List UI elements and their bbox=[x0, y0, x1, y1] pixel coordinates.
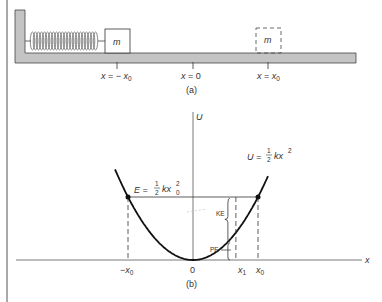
position-label-minus-x0: x = − x0 bbox=[100, 71, 132, 82]
spring-mass-diagram: m m x = − x0 x = 0 x = x0 (a) U x K bbox=[0, 0, 382, 302]
spring-coil bbox=[54, 32, 59, 50]
curve-sup: 2 bbox=[288, 147, 292, 154]
spring-coil bbox=[78, 32, 83, 50]
energy-frac-den: 2 bbox=[155, 189, 159, 196]
spring-coil bbox=[39, 32, 44, 50]
spring-coil bbox=[42, 32, 47, 50]
spring-coil bbox=[93, 32, 98, 50]
ke-guide-mark bbox=[187, 209, 207, 212]
spring-coil bbox=[63, 32, 68, 50]
spring-coil bbox=[66, 32, 71, 50]
spring-coil bbox=[57, 32, 62, 50]
curve-label: U = bbox=[247, 152, 261, 162]
mass-label: m bbox=[113, 37, 121, 47]
spring-coil bbox=[69, 32, 74, 50]
pe-label: PE bbox=[210, 246, 219, 253]
caption-a: (a) bbox=[186, 85, 197, 95]
ke-label: KE bbox=[216, 210, 225, 217]
x-axis-label: x bbox=[364, 255, 370, 265]
turning-point-right bbox=[256, 195, 261, 200]
tick-label-minus-x0: −x0 bbox=[120, 265, 134, 276]
turning-point-left bbox=[126, 195, 131, 200]
spring-coil bbox=[81, 32, 86, 50]
pe-brace bbox=[228, 243, 230, 260]
energy-frac-num: 1 bbox=[155, 180, 159, 187]
spring-coil bbox=[48, 32, 53, 50]
panel-b: U x KE PE E = 1 2 kx 2 0 U = 1 2 bbox=[16, 112, 370, 289]
spring-coil bbox=[90, 32, 95, 50]
curve-kx: kx bbox=[274, 151, 284, 161]
energy-sup: 2 bbox=[176, 180, 180, 187]
spring-coil bbox=[84, 32, 89, 50]
curve-frac-num: 1 bbox=[267, 147, 271, 154]
tick-label-x0: x0 bbox=[255, 265, 265, 276]
energy-label: E = bbox=[134, 185, 148, 195]
tick-label-x1: x1 bbox=[237, 265, 247, 276]
energy-sub: 0 bbox=[176, 189, 180, 196]
panel-a: m m x = − x0 x = 0 x = x0 (a) bbox=[15, 10, 356, 95]
ke-brace bbox=[225, 198, 230, 242]
spring-coil bbox=[87, 32, 92, 50]
curve-frac-den: 2 bbox=[267, 156, 271, 163]
spring-coil bbox=[51, 32, 56, 50]
spring-coil bbox=[45, 32, 50, 50]
caption-b: (b) bbox=[186, 279, 197, 289]
spring bbox=[25, 32, 105, 50]
tick-label-zero: 0 bbox=[190, 265, 195, 275]
u-axis-label: U bbox=[196, 112, 203, 122]
spring-coil bbox=[36, 32, 41, 50]
spring-coil bbox=[60, 32, 65, 50]
spring-coil bbox=[33, 32, 38, 50]
position-label-zero: x = 0 bbox=[180, 71, 201, 81]
potential-energy-curve bbox=[115, 169, 268, 260]
spring-coil bbox=[75, 32, 80, 50]
position-label-plus-x0: x = x0 bbox=[256, 71, 280, 82]
energy-kx: kx bbox=[162, 184, 172, 194]
ghost-mass-label: m bbox=[264, 35, 272, 45]
spring-coil bbox=[72, 32, 77, 50]
